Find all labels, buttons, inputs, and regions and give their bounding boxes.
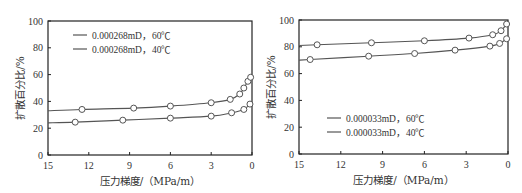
data-point-marker bbox=[366, 53, 372, 59]
chart-svg: 02040608010015129630压力梯度/（MPa/m）扩散百分比/%0… bbox=[261, 0, 522, 193]
y-tick-label: 40 bbox=[33, 96, 43, 107]
x-tick-label: 6 bbox=[422, 159, 427, 170]
data-point-marker bbox=[241, 106, 247, 112]
data-point-marker bbox=[452, 47, 458, 53]
x-tick-label: 0 bbox=[506, 159, 511, 170]
data-point-marker bbox=[490, 32, 496, 38]
data-point-marker bbox=[131, 105, 137, 111]
y-tick-label: 0 bbox=[289, 149, 294, 160]
y-tick-label: 20 bbox=[284, 122, 294, 133]
data-point-marker bbox=[72, 119, 78, 125]
data-point-marker bbox=[79, 106, 85, 112]
y-axis-title: 扩散百分比/% bbox=[14, 56, 26, 120]
legend-label: 0.000033mD，40℃ bbox=[346, 128, 425, 138]
y-tick-label: 60 bbox=[284, 68, 294, 79]
x-tick-label: 12 bbox=[336, 159, 346, 170]
data-point-marker bbox=[167, 103, 173, 109]
data-point-marker bbox=[167, 115, 173, 121]
x-tick-label: 15 bbox=[43, 160, 53, 171]
legend-label: 0.000268mD，60℃ bbox=[92, 31, 171, 41]
data-point-marker bbox=[208, 100, 214, 106]
data-point-marker bbox=[229, 110, 235, 116]
data-point-marker bbox=[208, 113, 214, 119]
data-point-marker bbox=[412, 51, 418, 57]
chart-svg: 02040608010015129630压力梯度/（MPa/m）扩散百分比/%0… bbox=[0, 0, 261, 193]
data-point-marker bbox=[314, 42, 320, 48]
data-point-marker bbox=[504, 21, 510, 27]
data-point-marker bbox=[227, 96, 233, 102]
y-tick-label: 80 bbox=[33, 42, 43, 53]
x-axis-title: 压力梯度/（MPa/m） bbox=[100, 175, 201, 187]
x-tick-label: 6 bbox=[168, 160, 173, 171]
y-tick-label: 80 bbox=[284, 41, 294, 52]
data-point-marker bbox=[247, 101, 253, 107]
data-point-marker bbox=[504, 36, 510, 42]
x-tick-label: 9 bbox=[380, 159, 385, 170]
x-tick-label: 9 bbox=[127, 160, 132, 171]
legend-label: 0.000268mD，40℃ bbox=[92, 45, 171, 55]
y-tick-label: 40 bbox=[284, 95, 294, 106]
y-tick-label: 20 bbox=[33, 123, 43, 134]
y-tick-label: 100 bbox=[28, 16, 43, 27]
data-point-marker bbox=[237, 91, 243, 97]
chart-left-0.000268mD: 02040608010015129630压力梯度/（MPa/m）扩散百分比/%0… bbox=[0, 0, 261, 193]
y-tick-label: 0 bbox=[38, 150, 43, 161]
x-tick-label: 15 bbox=[294, 159, 304, 170]
y-tick-label: 60 bbox=[33, 69, 43, 80]
data-point-marker bbox=[466, 35, 472, 41]
x-tick-label: 3 bbox=[464, 159, 469, 170]
y-tick-label: 100 bbox=[279, 15, 294, 26]
data-point-marker bbox=[248, 74, 254, 80]
x-tick-label: 0 bbox=[250, 160, 255, 171]
data-point-marker bbox=[497, 40, 503, 46]
x-tick-label: 3 bbox=[209, 160, 214, 171]
data-point-marker bbox=[241, 85, 247, 91]
x-axis-title: 压力梯度/（MPa/m） bbox=[353, 174, 454, 186]
x-tick-label: 12 bbox=[84, 160, 94, 171]
plot-frame bbox=[48, 21, 252, 155]
data-point-marker bbox=[120, 117, 126, 123]
legend-label: 0.000033mD，60℃ bbox=[346, 114, 425, 124]
data-point-marker bbox=[307, 57, 313, 63]
chart-right-0.000033mD: 02040608010015129630压力梯度/（MPa/m）扩散百分比/%0… bbox=[261, 0, 522, 193]
series-line bbox=[299, 24, 507, 45]
data-point-marker bbox=[368, 40, 374, 46]
data-point-marker bbox=[487, 43, 493, 49]
series-line bbox=[48, 77, 251, 111]
data-point-marker bbox=[421, 38, 427, 44]
data-point-marker bbox=[498, 28, 504, 34]
y-axis-title: 扩散百分比/% bbox=[265, 55, 277, 119]
